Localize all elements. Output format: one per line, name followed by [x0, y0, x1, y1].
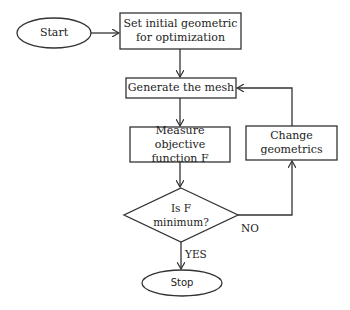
measure-node-label: Measure objective function F [136, 127, 224, 162]
edge-change-mesh [237, 88, 292, 126]
no-edge-label: NO [241, 222, 259, 234]
start-node-label: Start [17, 18, 91, 48]
decision-node-label: Is F minimum? [151, 201, 211, 229]
stop-node-label: Stop [142, 270, 222, 296]
init-node-label: Set initial geometric for optimization [122, 14, 239, 48]
mesh-node-label: Generate the mesh [126, 78, 236, 98]
change-node-label: Change geometrics [256, 126, 327, 160]
yes-edge-label: YES [185, 248, 207, 260]
edge-decision-change [238, 161, 292, 215]
